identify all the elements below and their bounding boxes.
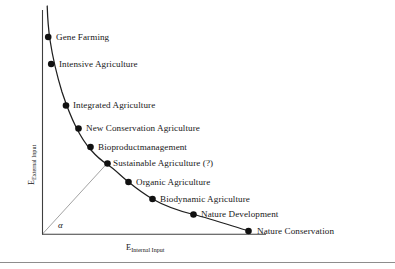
- data-point-gene-farming[interactable]: [45, 34, 52, 41]
- data-point-biodynamic-agriculture[interactable]: [149, 196, 156, 203]
- label-nature-development: Nature Development: [201, 210, 278, 219]
- alpha-angle-label: α: [58, 220, 63, 230]
- label-integrated-agriculture: Integrated Agriculture: [73, 101, 155, 110]
- alpha-ray: [43, 164, 108, 235]
- y-axis-label-subscript: External Input: [31, 145, 37, 180]
- label-new-conservation-agriculture: New Conservation Agriculture: [86, 124, 200, 133]
- x-axis-label-subscript: Internal Input: [131, 247, 164, 253]
- label-nature-conservation: Nature Conservation: [257, 227, 334, 236]
- data-point-intensive-agriculture[interactable]: [48, 61, 55, 68]
- label-organic-agriculture: Organic Agriculture: [136, 178, 210, 187]
- data-point-new-conservation-agriculture[interactable]: [75, 125, 82, 132]
- label-intensive-agriculture: Intensive Agriculture: [59, 60, 138, 69]
- data-point-integrated-agriculture[interactable]: [63, 102, 70, 109]
- label-sustainable-agriculture: Sustainable Agriculture (?): [113, 159, 213, 168]
- label-gene-farming: Gene Farming: [56, 33, 109, 42]
- data-point-sustainable-agriculture[interactable]: [104, 160, 111, 167]
- label-bioproductmanagement: Bioproductmanagement: [98, 143, 187, 152]
- data-point-bioproductmanagement[interactable]: [87, 144, 94, 151]
- label-biodynamic-agriculture: Biodynamic Agriculture: [160, 195, 250, 204]
- figure-container: Gene Farming Intensive Agriculture Integ…: [0, 0, 395, 269]
- data-point-organic-agriculture[interactable]: [125, 179, 132, 186]
- x-axis-label: EInternal Input: [126, 243, 164, 252]
- y-axis-label: EExternal Input: [27, 145, 36, 185]
- bottom-divider: [0, 262, 395, 263]
- y-axis-label-base: E: [27, 180, 36, 185]
- data-point-nature-conservation[interactable]: [245, 228, 252, 235]
- data-point-nature-development[interactable]: [190, 211, 197, 218]
